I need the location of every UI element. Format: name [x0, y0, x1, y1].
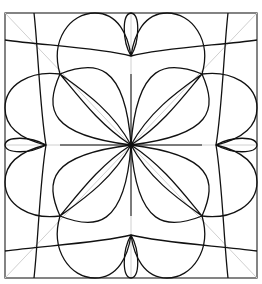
diagram-canvas — [0, 0, 262, 284]
left-top-lobe — [5, 73, 60, 145]
bottom-right-lobe — [131, 216, 205, 278]
lens-top-right — [131, 74, 209, 145]
left-sweep-bottom — [34, 145, 46, 278]
inner-petal-bottom-left — [60, 145, 131, 216]
lens-left-top — [60, 67, 131, 145]
bottom-sweep-right — [131, 235, 257, 251]
floral-pattern-diagram — [0, 0, 262, 284]
top-right-lobe — [131, 13, 205, 74]
top-sweep-left — [5, 40, 131, 56]
top-sweep-right — [131, 40, 257, 56]
lens-bottom-left — [53, 145, 131, 216]
left-sweep-top — [34, 13, 46, 145]
lens-right-top — [131, 67, 202, 145]
right-sweep-bottom — [216, 145, 228, 278]
left-bottom-lobe — [5, 145, 60, 217]
bottom-sweep-left — [5, 235, 131, 251]
bottom-left-lobe — [57, 216, 131, 278]
top-left-lobe — [57, 13, 131, 74]
lens-top-left — [53, 74, 131, 145]
right-top-lobe — [202, 73, 257, 145]
right-sweep-top — [216, 13, 228, 145]
right-bottom-lobe — [202, 145, 257, 217]
lens-bottom-right — [131, 145, 209, 216]
inner-petal-bottom-right — [131, 145, 202, 216]
